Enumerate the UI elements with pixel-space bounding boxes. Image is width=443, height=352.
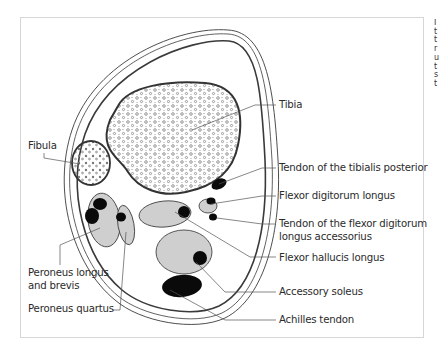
fibula-bone — [72, 141, 110, 185]
fdl-accessorius-tendon — [209, 214, 217, 221]
leg-cross-section-diagram — [0, 0, 443, 352]
label-accessory-soleus: Accessory soleus — [279, 286, 363, 298]
label-flexor-hallucis-longus: Flexor hallucis longus — [279, 252, 384, 264]
peroneus-tendon-2 — [85, 208, 99, 224]
label-achilles-tendon: Achilles tendon — [279, 314, 354, 326]
clip-fragment: t — [434, 80, 443, 89]
achilles-tendon-shape — [161, 273, 203, 299]
peroneus-quartus-muscle — [115, 204, 138, 246]
tibia-bone — [106, 82, 240, 193]
flexor-hallucis-tendon — [178, 206, 190, 218]
peroneus-quartus-tendon — [116, 213, 126, 222]
label-fibula: Fibula — [28, 140, 57, 152]
label-tendon-fdl-accessorius-2: longus accessorius — [279, 231, 372, 243]
label-tendon-fdl-accessorius-1: Tendon of the flexor digitorum — [279, 218, 427, 230]
label-peroneus-longus-brevis-2: and brevis — [28, 280, 79, 292]
label-peroneus-longus-brevis-1: Peroneus longus — [28, 267, 109, 279]
peroneus-tendon-1 — [93, 198, 107, 210]
label-tendon-tibialis-posterior: Tendon of the tibialis posterior — [279, 162, 428, 174]
adjacent-column-text-clip: I t t r u t s t — [434, 19, 443, 89]
label-flexor-digitorum-longus: Flexor digitorum longus — [279, 190, 395, 202]
label-tibia: Tibia — [279, 99, 302, 111]
accessory-soleus-tendon — [193, 251, 207, 265]
label-peroneus-quartus: Peroneus quartus — [28, 303, 114, 315]
